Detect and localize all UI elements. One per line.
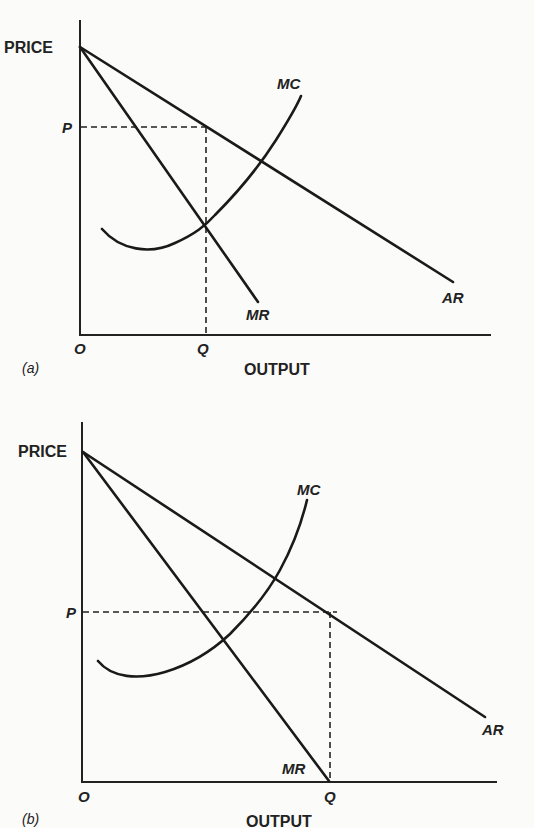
panel-a-ar-label: AR [442, 290, 464, 305]
panel-b-y-axis-label: PRICE [18, 444, 67, 460]
panel-b-ar-label: AR [482, 722, 504, 737]
panel-b-mr-label: MR [282, 761, 305, 776]
panel-b-mc-curve [98, 500, 307, 677]
panel-b-caption: (b) [22, 812, 39, 826]
diagram-graphics [0, 0, 534, 828]
panel-a-x-axis-label: OUTPUT [244, 362, 310, 378]
panel-a-y-axis-label: PRICE [4, 40, 53, 56]
panel-b-price-label: P [66, 605, 76, 620]
panel-a-origin-label: O [74, 341, 86, 356]
panel-b-mc-label: MC [297, 482, 320, 497]
panel-a-mc-label: MC [277, 76, 300, 91]
panel-b-graph [81, 422, 497, 783]
panel-b-quantity-label: Q [324, 789, 336, 804]
panel-b-origin-label: O [78, 789, 90, 804]
panel-a-mr-label: MR [246, 307, 269, 322]
panel-a-mr-curve [80, 47, 258, 302]
panel-b-x-axis-label: OUTPUT [246, 814, 312, 828]
panel-a-ar-curve [80, 47, 453, 282]
panel-a-caption: (a) [22, 361, 39, 375]
economics-diagram: PRICE P MC MR AR O Q (a) OUTPUT PRICE P … [0, 0, 534, 828]
panel-a-graph [79, 20, 491, 336]
panel-a-quantity-label: Q [197, 341, 209, 356]
panel-a-price-label: P [62, 120, 72, 135]
panel-b-mr-curve [83, 452, 329, 781]
